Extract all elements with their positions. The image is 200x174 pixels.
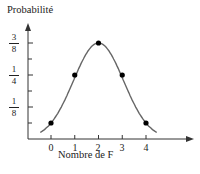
data-point: [143, 120, 148, 125]
data-point: [96, 40, 101, 45]
plot-area: [0, 0, 200, 174]
probability-curve: [40, 43, 156, 133]
data-point: [72, 72, 77, 77]
data-point: [120, 72, 125, 77]
y-axis-arrow-icon: [25, 23, 31, 31]
x-axis-arrow-icon: [186, 136, 194, 142]
data-point: [48, 120, 53, 125]
